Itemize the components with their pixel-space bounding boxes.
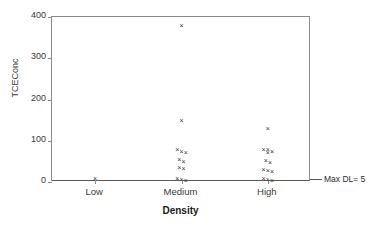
x-tick-label-high: High bbox=[227, 186, 307, 197]
plot-area bbox=[51, 16, 310, 181]
data-point bbox=[270, 149, 275, 154]
data-point bbox=[181, 166, 186, 171]
data-point bbox=[265, 147, 270, 152]
x-tick-mark bbox=[95, 180, 96, 184]
data-point bbox=[179, 149, 184, 154]
reference-line-extension bbox=[310, 179, 322, 180]
data-point bbox=[265, 126, 270, 131]
data-point bbox=[177, 165, 182, 170]
y-tick-mark bbox=[48, 17, 52, 18]
reference-line bbox=[52, 180, 309, 181]
data-point bbox=[261, 147, 266, 152]
y-tick-mark bbox=[48, 100, 52, 101]
x-tick-label-low: Low bbox=[54, 186, 134, 197]
data-point bbox=[175, 147, 180, 152]
y-tick-mark bbox=[48, 58, 52, 59]
y-tick-label: 200 bbox=[20, 94, 46, 103]
data-point bbox=[179, 23, 184, 28]
data-point bbox=[183, 150, 188, 155]
x-tick-label-medium: Medium bbox=[141, 186, 221, 197]
data-point bbox=[267, 160, 272, 165]
x-tick-mark bbox=[182, 180, 183, 184]
data-point bbox=[177, 157, 182, 162]
y-tick-mark bbox=[48, 141, 52, 142]
data-point bbox=[263, 158, 268, 163]
y-tick-mark bbox=[48, 182, 52, 183]
reference-line-label: Max DL= 5 bbox=[324, 174, 365, 184]
data-point bbox=[270, 169, 275, 174]
scatter-chart: TCEConc 0100200300400 Max DL= 5 Density … bbox=[0, 0, 374, 244]
y-axis-tick-labels: 0100200300400 bbox=[20, 0, 46, 244]
y-tick-label: 300 bbox=[20, 52, 46, 61]
x-tick-mark bbox=[268, 180, 269, 184]
data-point bbox=[265, 150, 270, 155]
data-point bbox=[181, 159, 186, 164]
y-tick-label: 100 bbox=[20, 135, 46, 144]
y-tick-label: 0 bbox=[20, 176, 46, 185]
x-axis-title: Density bbox=[51, 205, 310, 216]
y-axis-title: TCEConc bbox=[10, 33, 20, 123]
y-tick-label: 400 bbox=[20, 11, 46, 20]
data-point bbox=[265, 168, 270, 173]
data-point bbox=[261, 167, 266, 172]
data-point bbox=[179, 118, 184, 123]
